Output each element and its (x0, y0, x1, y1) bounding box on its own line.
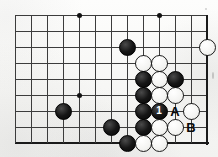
stone-black[interactable] (119, 135, 136, 152)
stone-white[interactable] (151, 135, 168, 152)
grid-line-vertical (15, 15, 16, 143)
go-diagram-page: 1AB (0, 0, 218, 157)
grid-line-vertical (79, 15, 80, 143)
stone-white[interactable] (183, 103, 200, 120)
stone-white[interactable] (199, 39, 216, 56)
grid-line-vertical (63, 15, 64, 143)
move-number: 1 (156, 106, 162, 116)
go-board[interactable]: 1AB (0, 0, 218, 157)
board-edge-right (206, 15, 208, 145)
stone-black-move-1[interactable]: 1 (151, 103, 168, 120)
stone-black[interactable] (119, 39, 136, 56)
scan-speck (205, 8, 207, 10)
stone-black[interactable] (167, 71, 184, 88)
stone-black[interactable] (135, 119, 152, 136)
point-label-b[interactable]: B (186, 121, 195, 134)
stone-white[interactable] (135, 135, 152, 152)
stone-black[interactable] (55, 103, 72, 120)
scan-speck (212, 72, 214, 79)
star-point (157, 13, 162, 18)
point-label-a[interactable]: A (170, 105, 179, 118)
grid-line-vertical (31, 15, 32, 143)
stone-white[interactable] (151, 71, 168, 88)
stone-black[interactable] (135, 87, 152, 104)
stone-white[interactable] (167, 87, 184, 104)
grid-line-vertical (95, 15, 96, 143)
stone-white[interactable] (167, 119, 184, 136)
star-point (77, 13, 82, 18)
stone-white[interactable] (151, 119, 168, 136)
stone-black[interactable] (103, 119, 120, 136)
board-edge-bottom (15, 142, 209, 144)
stone-white[interactable] (135, 55, 152, 72)
grid-line-vertical (47, 15, 48, 143)
stone-black[interactable] (135, 71, 152, 88)
stone-black[interactable] (135, 103, 152, 120)
stone-white[interactable] (151, 87, 168, 104)
star-point (77, 93, 82, 98)
grid-line-vertical (127, 15, 128, 143)
stone-white[interactable] (151, 55, 168, 72)
